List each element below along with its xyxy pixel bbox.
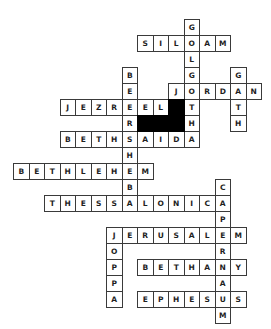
crossword-block-cell <box>137 115 154 132</box>
crossword-cell[interactable]: E <box>122 83 139 100</box>
crossword-cell[interactable]: D <box>168 131 185 148</box>
crossword-cell[interactable]: E <box>137 291 154 308</box>
crossword-cell[interactable]: N <box>215 259 232 276</box>
crossword-cell[interactable]: O <box>153 195 170 212</box>
crossword-cell[interactable]: A <box>184 227 201 244</box>
crossword-cell[interactable]: J <box>60 99 77 116</box>
crossword-cell[interactable]: H <box>106 163 123 180</box>
crossword-cell[interactable]: E <box>137 99 154 116</box>
crossword-cell[interactable]: T <box>44 163 61 180</box>
crossword-cell[interactable]: C <box>215 179 232 196</box>
crossword-cell[interactable]: E <box>122 227 139 244</box>
crossword-cell[interactable]: N <box>168 195 185 212</box>
crossword-cell[interactable]: M <box>215 35 232 52</box>
crossword-cell[interactable]: O <box>184 35 201 52</box>
crossword-cell[interactable]: N <box>246 83 263 100</box>
crossword-cell[interactable]: G <box>184 67 201 84</box>
crossword-cell[interactable]: S <box>199 291 216 308</box>
crossword-cell[interactable]: P <box>153 291 170 308</box>
crossword-cell[interactable]: S <box>106 195 123 212</box>
crossword-cell[interactable]: G <box>230 67 247 84</box>
crossword-cell[interactable]: I <box>153 131 170 148</box>
crossword-block-cell <box>168 99 185 116</box>
crossword-cell[interactable]: H <box>184 259 201 276</box>
crossword-cell[interactable]: T <box>168 259 185 276</box>
crossword-cell[interactable]: P <box>215 211 232 228</box>
crossword-cell[interactable]: P <box>106 259 123 276</box>
crossword-cell[interactable]: S <box>91 195 108 212</box>
crossword-cell[interactable]: A <box>199 35 216 52</box>
crossword-cell[interactable]: A <box>184 131 201 148</box>
crossword-cell[interactable]: M <box>137 163 154 180</box>
crossword-cell[interactable]: S <box>168 227 185 244</box>
crossword-cell[interactable]: E <box>122 163 139 180</box>
crossword-cell[interactable]: A <box>199 259 216 276</box>
crossword-cell[interactable]: I <box>184 195 201 212</box>
crossword-cell[interactable]: B <box>60 131 77 148</box>
crossword-cell[interactable]: L <box>184 51 201 68</box>
crossword-block-cell <box>168 115 185 132</box>
crossword-cell[interactable]: J <box>106 227 123 244</box>
crossword-cell[interactable]: A <box>215 195 232 212</box>
crossword-cell[interactable]: A <box>122 195 139 212</box>
crossword-cell[interactable]: L <box>168 35 185 52</box>
crossword-cell[interactable]: E <box>75 131 92 148</box>
crossword-cell[interactable]: Z <box>91 99 108 116</box>
crossword-cell[interactable]: H <box>230 115 247 132</box>
crossword-cell[interactable]: B <box>137 259 154 276</box>
crossword-cell[interactable]: U <box>153 227 170 244</box>
crossword-cell[interactable]: A <box>230 83 247 100</box>
crossword-cell[interactable]: S <box>137 35 154 52</box>
crossword-cell[interactable]: D <box>215 83 232 100</box>
crossword-cell[interactable]: H <box>106 131 123 148</box>
crossword-cell[interactable]: E <box>215 227 232 244</box>
crossword-cell[interactable]: J <box>168 83 185 100</box>
crossword-cell[interactable]: H <box>184 115 201 132</box>
crossword-cell[interactable]: O <box>106 243 123 260</box>
crossword-cell[interactable]: E <box>153 259 170 276</box>
crossword-cell[interactable]: A <box>215 275 232 292</box>
crossword-cell[interactable]: R <box>122 115 139 132</box>
crossword-cell[interactable]: L <box>137 195 154 212</box>
crossword-cell[interactable]: B <box>122 179 139 196</box>
crossword-cell[interactable]: L <box>75 163 92 180</box>
crossword-cell[interactable]: A <box>137 131 154 148</box>
crossword-cell[interactable]: R <box>215 243 232 260</box>
crossword-cell[interactable]: R <box>137 227 154 244</box>
crossword-cell[interactable]: H <box>60 163 77 180</box>
crossword-cell[interactable]: T <box>230 99 247 116</box>
crossword-cell[interactable]: Y <box>230 259 247 276</box>
crossword-cell[interactable]: G <box>184 19 201 36</box>
crossword-cell[interactable]: C <box>199 195 216 212</box>
crossword-cell[interactable]: S <box>230 291 247 308</box>
crossword-cell[interactable]: A <box>106 291 123 308</box>
crossword-cell[interactable]: B <box>13 163 30 180</box>
crossword-cell[interactable]: E <box>91 163 108 180</box>
crossword-cell[interactable]: M <box>215 307 232 324</box>
crossword-grid: GOLGOTHASILAMJRDANGTHBEERSHEBAJEZRELBETH… <box>0 0 271 329</box>
crossword-cell[interactable]: S <box>122 131 139 148</box>
crossword-cell[interactable]: P <box>106 275 123 292</box>
crossword-cell[interactable]: L <box>153 99 170 116</box>
crossword-cell[interactable]: H <box>168 291 185 308</box>
crossword-cell[interactable]: R <box>106 99 123 116</box>
crossword-block-cell <box>153 115 170 132</box>
crossword-cell[interactable]: T <box>184 99 201 116</box>
crossword-cell[interactable]: B <box>122 67 139 84</box>
crossword-cell[interactable]: E <box>122 99 139 116</box>
crossword-cell[interactable]: U <box>215 291 232 308</box>
crossword-cell[interactable]: E <box>29 163 46 180</box>
crossword-cell[interactable]: O <box>184 83 201 100</box>
crossword-cell[interactable]: H <box>60 195 77 212</box>
crossword-cell[interactable]: M <box>230 227 247 244</box>
crossword-cell[interactable]: T <box>91 131 108 148</box>
crossword-cell[interactable]: E <box>75 195 92 212</box>
crossword-cell[interactable]: E <box>75 99 92 116</box>
crossword-cell[interactable]: L <box>199 227 216 244</box>
crossword-cell[interactable]: T <box>44 195 61 212</box>
crossword-cell[interactable]: R <box>199 83 216 100</box>
crossword-cell[interactable]: H <box>122 147 139 164</box>
crossword-cell[interactable]: E <box>184 291 201 308</box>
crossword-cell[interactable]: I <box>153 35 170 52</box>
